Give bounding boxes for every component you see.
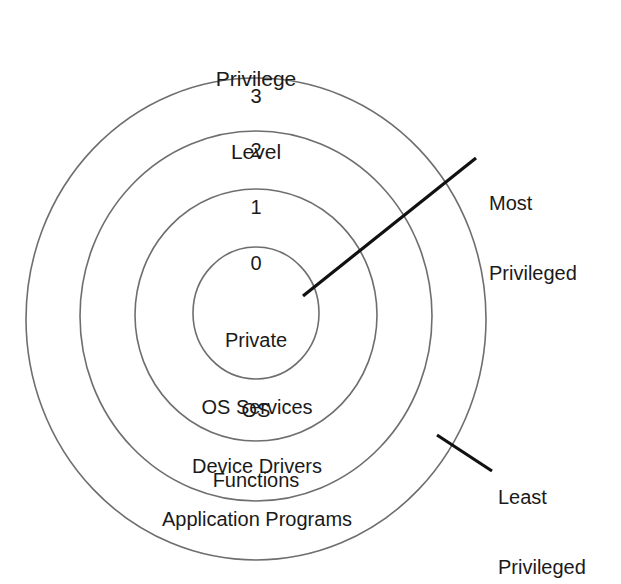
callout-least-privileged: Least Privileged: [498, 440, 586, 584]
callout-most-privileged-line-2: Privileged: [489, 262, 577, 285]
ring-label-application-programs: Application Programs: [162, 508, 352, 531]
ring-label-device-drivers: Device Drivers: [192, 455, 322, 478]
least-privileged-leader-line: [437, 435, 492, 471]
most-privileged-leader-line: [303, 158, 476, 296]
callout-least-privileged-line-1: Least: [498, 486, 586, 509]
level-number-3: 3: [250, 85, 261, 108]
callout-most-privileged: Most Privileged: [489, 146, 577, 332]
level-number-1: 1: [250, 196, 261, 219]
privilege-level-diagram: Privilege Level 3 2 1 0 Private OS Funct…: [0, 0, 621, 584]
level-number-2: 2: [250, 139, 261, 162]
callout-least-privileged-line-2: Privileged: [498, 556, 586, 579]
callout-most-privileged-line-1: Most: [489, 192, 577, 215]
ring-label-os-services: OS Services: [201, 396, 312, 419]
core-label-line-1: Private: [213, 329, 300, 352]
level-number-0: 0: [250, 252, 261, 275]
diagram-title: Privilege Level: [216, 18, 297, 213]
